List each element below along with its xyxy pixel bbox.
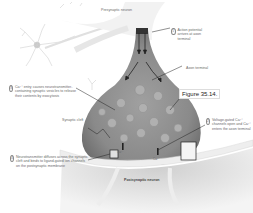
step-number-icon: 1 <box>171 28 176 35</box>
synapse-diagram: Presynaptic neuron Axon terminal Synapti… <box>0 0 253 213</box>
neuron-sketch-icon <box>20 2 128 90</box>
step-text: Action potential arrives at axon termina… <box>178 28 210 41</box>
inset-box-right <box>181 142 196 160</box>
step-number-icon: 2 <box>206 118 210 125</box>
step-number-icon: 3 <box>9 85 13 92</box>
postsynaptic-neuron-label: Postsynaptic neuron <box>124 178 160 182</box>
calcium-label-right: Ca²⁺ <box>153 157 160 161</box>
figure-tag: Figure 35.14. <box>179 89 220 99</box>
step-2: 2 Voltage-gated Ca²⁺ channels open and C… <box>206 118 252 131</box>
axon-top <box>136 28 148 34</box>
axon-terminal-label: Axon terminal <box>186 66 208 70</box>
synaptic-cleft-label: Synaptic cleft <box>62 118 83 122</box>
step-3: 3 Ca²⁺ entry causes neurotransmitter-con… <box>9 85 77 98</box>
calcium-label-left: Ca²⁺ <box>117 150 124 154</box>
step-text: Voltage-gated Ca²⁺ channels open and Ca²… <box>212 118 252 131</box>
step-text: Neurotransmitter diffuses across the syn… <box>16 155 88 168</box>
step-text: Ca²⁺ entry causes neurotransmitter-conta… <box>15 85 77 98</box>
step-4: 4 Neurotransmitter diffuses across the s… <box>10 155 88 168</box>
step-1: 1 Action potential arrives at axon termi… <box>171 28 209 41</box>
presynaptic-neuron-label: Presynaptic neuron <box>101 8 141 12</box>
step-number-icon: 4 <box>10 155 14 162</box>
